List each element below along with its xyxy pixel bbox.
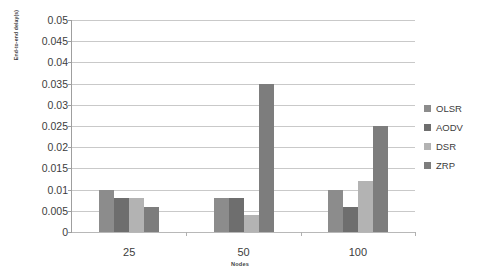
y-axis-tick-label: 0.01 (24, 185, 68, 195)
y-axis-tick-mark (68, 126, 72, 127)
bar-aodv-50 (229, 198, 244, 232)
y-axis-tick-label: 0.04 (24, 57, 68, 67)
y-axis-tick-labels: 00.0050.010.0150.020.0250.030.0350.040.0… (24, 20, 68, 232)
bar-zrp-25 (144, 207, 159, 232)
chart-container: End-to-end delay(s) 00.0050.010.0150.020… (0, 0, 480, 280)
legend-item-label: DSR (436, 141, 456, 152)
y-axis-tick-mark (68, 147, 72, 148)
legend-swatch-icon (424, 124, 431, 131)
x-axis-tick-mark (415, 232, 416, 236)
bar-olsr-25 (99, 190, 114, 232)
legend-item-olsr[interactable]: OLSR (424, 99, 480, 118)
y-axis-tick-label: 0.015 (24, 163, 68, 173)
y-axis-tick-label: 0.05 (24, 15, 68, 25)
y-axis-tick-mark (68, 232, 72, 233)
x-axis-tick-mark (186, 232, 187, 236)
bar-dsr-50 (244, 215, 259, 232)
bar-group (328, 20, 388, 232)
legend-item-dsr[interactable]: DSR (424, 137, 480, 156)
bar-group (99, 20, 159, 232)
x-axis-category-label: 50 (204, 246, 284, 258)
y-axis-tick-mark (68, 20, 72, 21)
gridline (72, 232, 415, 233)
legend-swatch-icon (424, 143, 431, 150)
y-axis-tick-label: 0.03 (24, 100, 68, 110)
y-axis-tick-label: 0.02 (24, 142, 68, 152)
y-axis-tick-mark (68, 190, 72, 191)
y-axis-tick-mark (68, 105, 72, 106)
legend-swatch-icon (424, 105, 431, 112)
y-axis-title: End-to-end delay(s) (10, 0, 22, 90)
y-axis-tick-label: 0.035 (24, 79, 68, 89)
y-axis-tick-mark (68, 84, 72, 85)
legend-item-label: OLSR (436, 103, 462, 114)
x-axis-category-label: 100 (318, 246, 398, 258)
legend-item-zrp[interactable]: ZRP (424, 156, 480, 175)
y-axis-tick-label: 0.045 (24, 36, 68, 46)
y-axis-tick-label: 0 (24, 227, 68, 237)
legend-item-aodv[interactable]: AODV (424, 118, 480, 137)
plot-area (72, 20, 415, 232)
legend-swatch-icon (424, 162, 431, 169)
bar-olsr-50 (214, 198, 229, 232)
bar-dsr-100 (358, 181, 373, 232)
bar-group (214, 20, 274, 232)
bar-zrp-100 (373, 126, 388, 232)
y-axis-tick-mark (68, 211, 72, 212)
y-axis-tick-mark (68, 168, 72, 169)
x-axis-category-label: 25 (89, 246, 169, 258)
y-axis-tick-mark (68, 62, 72, 63)
bar-zrp-50 (259, 84, 274, 232)
bar-olsr-100 (328, 190, 343, 232)
y-axis-tick-label: 0.025 (24, 121, 68, 131)
legend: OLSRAODVDSRZRP (424, 99, 480, 175)
legend-item-label: AODV (436, 122, 463, 133)
bar-aodv-100 (343, 207, 358, 232)
y-axis-tick-label: 0.005 (24, 206, 68, 216)
x-axis-tick-mark (301, 232, 302, 236)
legend-item-label: ZRP (436, 160, 455, 171)
bar-dsr-25 (129, 198, 144, 232)
y-axis-tick-mark (68, 41, 72, 42)
bar-aodv-25 (114, 198, 129, 232)
x-axis-title: Nodes (0, 261, 480, 267)
